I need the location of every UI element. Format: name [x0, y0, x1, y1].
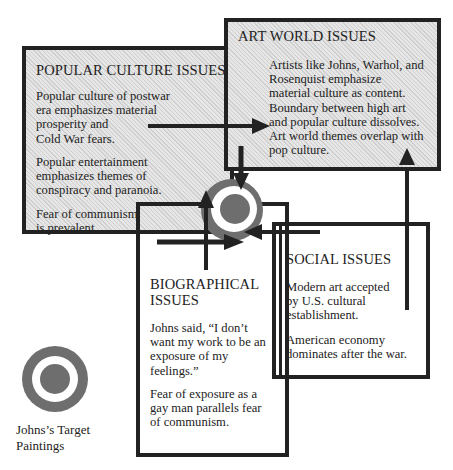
legend-target-icon	[22, 346, 88, 412]
diagram-overlay	[0, 0, 453, 470]
legend-caption: Johns’s Target Paintings	[16, 422, 90, 454]
arrow-popular-to-art-icon	[148, 118, 270, 134]
arrow-social-to-art-icon	[399, 148, 415, 310]
